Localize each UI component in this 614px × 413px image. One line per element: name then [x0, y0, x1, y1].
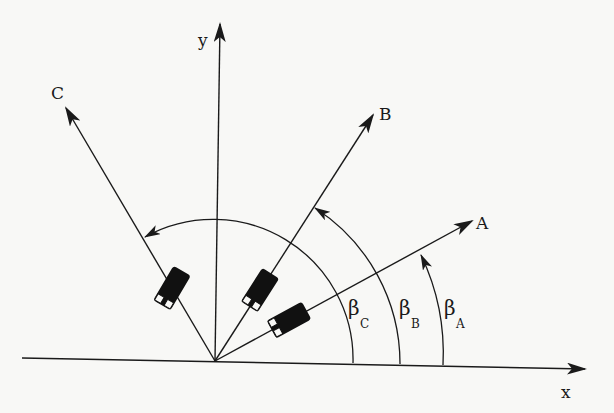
x-axis-label: x	[561, 382, 571, 402]
vehicle-b-icon	[241, 268, 279, 312]
y-axis-label: y	[197, 30, 208, 50]
beta-a-symbol: β	[444, 296, 456, 320]
y-axis	[215, 24, 220, 361]
vector-c-label: C	[51, 83, 64, 103]
arc-beta-b	[315, 208, 400, 364]
beta-b-symbol: β	[399, 296, 411, 320]
beta-c-subscript: C	[360, 317, 369, 331]
vehicle-c-icon	[153, 266, 191, 311]
beta-b-subscript: B	[411, 317, 420, 331]
vector-angle-diagram: y x C B A β C β B β A	[0, 0, 614, 413]
vector-c	[66, 108, 215, 361]
arc-beta-a	[421, 255, 443, 365]
vector-a-label: A	[475, 213, 489, 233]
x-axis	[22, 358, 585, 369]
vehicle-a-icon	[267, 302, 312, 339]
vector-b-label: B	[379, 104, 392, 124]
beta-a-subscript: A	[455, 317, 465, 331]
beta-c-symbol: β	[348, 296, 360, 320]
diagram-svg: y x C B A β C β B β A	[0, 0, 614, 413]
